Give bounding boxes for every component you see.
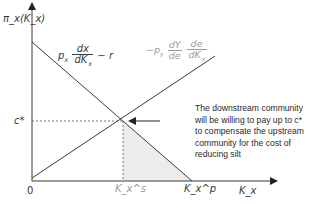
upstream-curve-label: px dx dKx − r [58, 44, 113, 68]
downstream-label-p-sub: y [160, 50, 164, 57]
c-star-label: c* [14, 116, 25, 126]
origin-label-text: 0 [27, 185, 33, 196]
downstream-frac2-num: de [187, 39, 207, 50]
x-axis-label-text: K_x [239, 185, 256, 196]
c-star-label-text: c* [14, 115, 25, 126]
annotation-arrowhead-icon [128, 117, 136, 125]
upstream-frac-den-text: dK [73, 54, 88, 65]
downstream-label-p: −p [146, 44, 160, 55]
downstream-frac2-den: dKx [187, 50, 207, 62]
x-axis-arrow-icon [270, 177, 278, 185]
downstream-fraction-1: dY de [168, 40, 182, 60]
upstream-label-suffix: − r [97, 50, 113, 61]
x-axis-label: K_x [239, 186, 256, 196]
upstream-frac-den-sub: x [88, 60, 92, 68]
upstream-label-p-sub: x [64, 56, 68, 64]
downstream-frac2-den-text: dK [188, 49, 202, 60]
y-axis-label-text: π_x(K_x) [3, 13, 45, 24]
upstream-fraction: dx dKx [72, 44, 93, 68]
k-s-label-text: K_x^s [115, 183, 146, 194]
downstream-fraction-2: de dKx [187, 39, 207, 62]
diagram-canvas [0, 0, 309, 204]
annotation-text: The downstream community will be willing… [195, 103, 307, 161]
upstream-frac-den: dKx [72, 55, 93, 68]
downstream-frac2-den-sub: x [202, 54, 206, 61]
y-axis-label: π_x(K_x) [3, 14, 45, 24]
origin-label: 0 [27, 186, 33, 196]
k-p-label: K_x^p [184, 184, 216, 194]
k-s-label: K_x^s [115, 184, 146, 194]
k-p-label-text: K_x^p [184, 183, 216, 194]
downstream-curve-label: −py dY de de dKx [146, 39, 208, 62]
downstream-frac1-den: de [168, 51, 182, 61]
y-axis-arrow-icon [28, 2, 36, 10]
